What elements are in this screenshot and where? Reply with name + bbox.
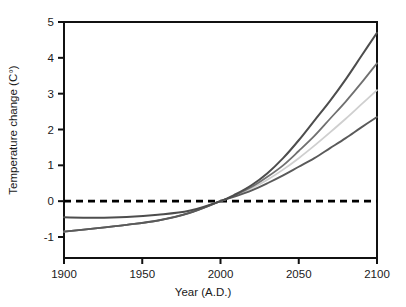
- y-axis-label-container: Temperature change (C°): [0, 0, 26, 260]
- x-axis-tick-label: 2000: [208, 268, 234, 280]
- y-axis-tick-label: 1: [48, 159, 54, 171]
- series-line-lowest-projection: [64, 117, 377, 232]
- x-axis-label: Year (A.D.): [0, 286, 406, 298]
- x-axis-tick-label: 1900: [51, 268, 77, 280]
- x-axis-tick-label: 2100: [364, 268, 390, 280]
- y-axis-tick-label: 3: [48, 88, 54, 100]
- y-axis-label: Temperature change (C°): [7, 65, 19, 194]
- y-axis-tick-label: -1: [44, 231, 54, 243]
- plot-canvas: -101234519001950200020502100: [0, 0, 406, 307]
- x-axis-tick-label: 1950: [129, 268, 155, 280]
- y-axis-tick-label: 0: [48, 195, 54, 207]
- series-line-mid-projection: [64, 90, 377, 232]
- plot-frame: [64, 22, 377, 258]
- series-line-highest-projection: [64, 33, 377, 218]
- x-axis-tick-label: 2050: [286, 268, 312, 280]
- y-axis-tick-label: 2: [48, 124, 54, 136]
- y-axis-tick-label: 5: [48, 16, 54, 28]
- y-axis-tick-label: 4: [48, 52, 55, 64]
- temperature-projection-chart: -101234519001950200020502100 Temperature…: [0, 0, 406, 307]
